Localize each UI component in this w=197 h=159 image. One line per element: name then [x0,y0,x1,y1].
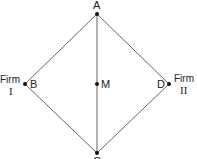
label-b: B [30,78,37,90]
firm-left-numeral: I [9,85,13,97]
edge-c-d [97,84,169,153]
node-a [95,12,99,16]
node-m [95,82,99,86]
diamond-diagram: A B M D C Firm I Firm II [0,0,197,159]
firm-right-numeral: II [180,84,188,96]
label-d: D [157,78,165,90]
firm-right-word: Firm [174,73,194,84]
edge-d-a [97,14,169,84]
node-b [23,82,27,86]
firm-left-word: Firm [0,74,20,85]
label-m: M [101,78,110,90]
edge-a-b [25,14,97,84]
label-c: C [93,155,101,159]
node-d [167,82,171,86]
edge-b-c [25,84,97,153]
label-a: A [93,0,101,11]
